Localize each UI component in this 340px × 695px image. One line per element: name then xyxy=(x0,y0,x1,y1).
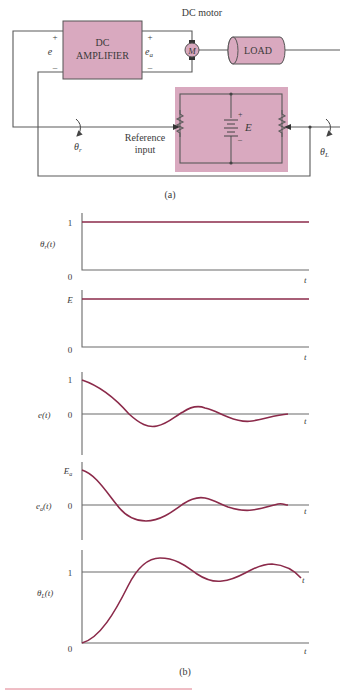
input-plus-sign: + xyxy=(52,32,57,42)
g5-xlabel: t xyxy=(304,646,307,656)
reference-input-label-line1: Reference xyxy=(125,132,166,143)
battery-E-label: E xyxy=(244,121,252,133)
g5-xlabel-inline: t xyxy=(302,575,305,585)
motor-symbol: M xyxy=(187,46,196,56)
graph-e: 1 0 e(t) t xyxy=(38,372,309,455)
g5-tick-1: 1 xyxy=(68,568,73,578)
figure: DC AMPLIFIER + e – + ea – DC motor M LOA… xyxy=(0,0,340,695)
node-dot-top xyxy=(229,92,232,95)
output-minus-sign: – xyxy=(147,62,153,72)
output-plus-sign: + xyxy=(147,32,152,42)
g5-ylabel: θL(t) xyxy=(37,588,53,599)
g1-xlabel: t xyxy=(304,275,307,285)
dc-motor-title: DC motor xyxy=(182,7,223,18)
node-dot-bottom xyxy=(229,161,232,164)
input-e-label: e xyxy=(48,46,53,57)
g3-tick-1: 1 xyxy=(68,375,73,385)
reference-input-label-line2: input xyxy=(135,144,156,155)
ea-curve xyxy=(82,470,288,521)
battery-plus: + xyxy=(238,110,243,119)
g4-tick-Ea: Ea xyxy=(63,466,73,477)
theta-L-curve xyxy=(82,558,301,643)
graph-theta-L: 1 0 θL(t) t t xyxy=(37,550,309,656)
load-label: LOAD xyxy=(244,45,272,56)
circuit-diagram: DC AMPLIFIER + e – + ea – DC motor M LOA… xyxy=(13,7,340,201)
graph-theta-r: 1 0 θr(t) t xyxy=(40,213,309,285)
g1-tick-1: 1 xyxy=(68,218,73,228)
amplifier-label-line1: DC xyxy=(96,37,110,48)
g5-tick-0: 0 xyxy=(68,644,73,654)
e-curve xyxy=(82,380,288,427)
g1-ylabel: θr(t) xyxy=(40,239,55,250)
g3-tick-0: 0 xyxy=(68,410,73,420)
g3-xlabel: t xyxy=(304,416,307,426)
amplifier-label-line2: AMPLIFIER xyxy=(76,50,129,61)
input-minus-sign: – xyxy=(52,62,58,72)
g4-tick-0: 0 xyxy=(68,501,73,511)
g4-xlabel: t xyxy=(304,506,307,516)
g4-ylabel: ea(t) xyxy=(36,501,52,512)
theta-r-label: θr xyxy=(74,141,82,154)
g2-xlabel: t xyxy=(304,352,307,362)
g1-tick-0: 0 xyxy=(68,272,73,282)
graph-E: E 0 t xyxy=(66,290,309,362)
g3-ylabel: e(t) xyxy=(38,410,51,420)
output-ea-label: ea xyxy=(145,46,153,59)
theta-L-label: θL xyxy=(320,146,329,159)
graph-ea: Ea 0 ea(t) t xyxy=(36,462,309,540)
junction-dot xyxy=(308,125,311,128)
caption-a: (a) xyxy=(164,189,175,201)
g2-tick-0: 0 xyxy=(68,345,73,355)
g2-tick-E: E xyxy=(66,295,73,305)
caption-b: (b) xyxy=(179,666,191,678)
